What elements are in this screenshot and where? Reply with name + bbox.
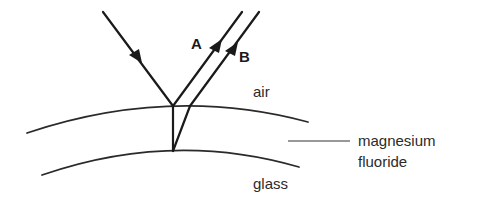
refracted-up [173, 106, 190, 151]
thin-film-diagram: A B air magnesium fluoride glass [0, 0, 483, 205]
coating-glass-boundary [42, 150, 299, 175]
ray-b-label: B [239, 48, 250, 65]
coating-label-line2: fluoride [358, 153, 407, 170]
coating-label-line1: magnesium [358, 132, 436, 149]
incident-ray [103, 12, 173, 106]
air-label: air [253, 83, 270, 100]
ray-a-label: A [191, 35, 202, 52]
refracted-path [173, 106, 190, 151]
air-coating-boundary [27, 106, 308, 133]
ray-a-arrow-icon [209, 39, 222, 53]
glass-label: glass [253, 175, 288, 192]
reflected-ray-a [173, 12, 242, 106]
